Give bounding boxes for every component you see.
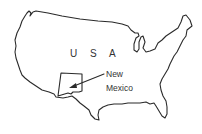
arrow-head-icon xyxy=(69,83,77,88)
usa-outline xyxy=(15,11,192,120)
usa-map: U S A New Mexico xyxy=(0,0,202,134)
state-label-line1: New xyxy=(106,69,124,79)
country-label: U S A xyxy=(70,48,121,59)
arrow-line xyxy=(74,74,104,86)
state-label-line2: Mexico xyxy=(106,83,133,93)
